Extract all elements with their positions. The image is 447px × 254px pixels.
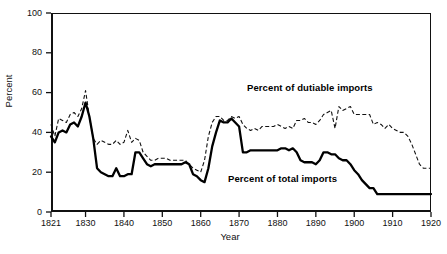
y-axis-tick-label: 80: [0, 48, 42, 57]
y-axis-tick-label: 20: [0, 168, 42, 177]
x-axis-tick-label: 1920: [411, 219, 447, 228]
x-axis-tick-label: 1880: [257, 219, 297, 228]
y-axis-tick-label: 40: [0, 128, 42, 137]
y-axis-tick-label: 0: [0, 208, 42, 217]
axis-tick-marks: [46, 13, 431, 217]
x-axis-tick-label: 1870: [219, 219, 259, 228]
x-axis-tick-label: 1840: [104, 219, 144, 228]
dutiable-series-label: Percent of dutiable imports: [247, 82, 373, 93]
x-axis-tick-label: 1910: [373, 219, 413, 228]
y-axis-tick-label: 100: [0, 9, 42, 18]
series-line-dutiable-imports: [51, 91, 431, 173]
x-axis-tick-label: 1890: [296, 219, 336, 228]
y-axis-title: Percent: [4, 59, 14, 123]
total-series-label: Percent of total imports: [228, 173, 337, 184]
chart-figure: 020406080100 182118301840185018601870188…: [0, 0, 447, 254]
x-axis-tick-label: 1860: [181, 219, 221, 228]
x-axis-title: Year: [200, 232, 260, 242]
x-axis-tick-label: 1900: [334, 219, 374, 228]
x-axis-tick-label: 1830: [66, 219, 106, 228]
x-axis-tick-label: 1850: [142, 219, 182, 228]
chart-canvas: [0, 0, 447, 254]
